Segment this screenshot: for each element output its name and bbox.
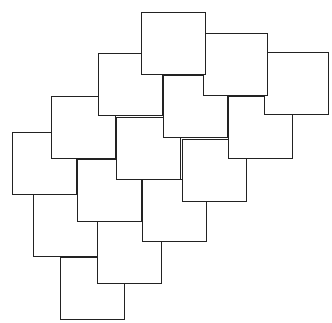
square-sq-3: [264, 52, 329, 115]
square-sq-2: [203, 33, 268, 96]
squares-diagram: [0, 0, 332, 323]
square-sq-1: [141, 12, 206, 75]
